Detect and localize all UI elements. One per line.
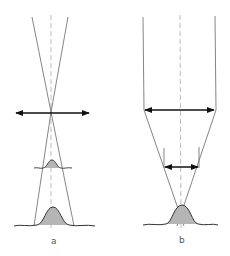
beam-right-b [215,16,216,110]
cone-left-top-a [32,17,51,112]
axis-b [180,15,181,228]
beam-left-b [143,17,144,110]
panel-a [14,15,95,228]
panel-b-label: b [179,235,185,245]
panel-b [143,15,218,228]
panel-a-label: a [51,236,57,246]
gaussian-fill-b [166,205,198,224]
cone-right-top-a [51,17,68,112]
optics-diagram [0,0,230,256]
large-gaussian-fill-a [37,207,69,225]
cone-left-bottom-a [34,112,51,226]
